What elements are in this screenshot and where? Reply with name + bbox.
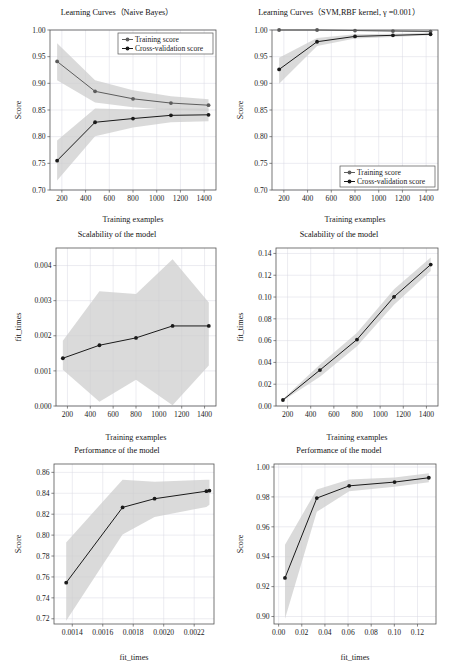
y-tick-label: 0.02 — [258, 380, 271, 389]
x-tick-label: 1400 — [419, 410, 434, 419]
x-tick-label: 600 — [107, 410, 119, 419]
y-tick-label: 0.90 — [254, 79, 267, 88]
y-tick-label: 0.78 — [36, 552, 49, 561]
y-tick-label: 0.04 — [258, 358, 271, 367]
data-point — [207, 103, 211, 107]
chart-panel-svm-learning-curve: Learning Curves（SVM,RBF kernel, γ =0.001… — [234, 8, 444, 226]
data-point — [207, 113, 211, 117]
y-tick-label: 0.001 — [34, 367, 51, 376]
data-point — [98, 343, 102, 347]
y-tick-label: 0.00 — [258, 402, 271, 411]
y-tick-label: 0.000 — [34, 402, 51, 411]
data-point — [121, 505, 125, 509]
x-tick-label: 1200 — [173, 194, 188, 203]
y-tick-label: 0.72 — [36, 614, 49, 623]
x-tick-label: 400 — [85, 410, 97, 419]
x-tick-label: 0.0022 — [184, 628, 205, 637]
legend-label-1: Cross-validation score — [357, 177, 426, 186]
x-tick-label: 1200 — [396, 410, 411, 419]
x-tick-label: 0.0014 — [62, 628, 83, 637]
data-point — [55, 159, 59, 163]
x-tick-label: 0.10 — [388, 628, 401, 637]
y-tick-label: 0.85 — [254, 106, 267, 115]
legend[interactable]: Training scoreCross-validation score — [118, 33, 213, 54]
data-point — [277, 68, 281, 72]
data-point — [429, 32, 433, 36]
x-axis-label: fit_times — [340, 653, 369, 662]
x-tick-label: 1400 — [197, 194, 212, 203]
x-tick-label: 1000 — [373, 410, 388, 419]
confidence-band — [66, 480, 209, 621]
x-tick-label: 1400 — [197, 410, 212, 419]
x-tick-label: 400 — [80, 194, 92, 203]
y-tick-label: 0.90 — [256, 612, 269, 621]
data-point — [429, 263, 433, 267]
data-point — [208, 489, 212, 493]
data-point — [61, 356, 65, 360]
y-axis-label: fit_times — [14, 312, 23, 341]
y-axis-label: Score — [236, 100, 245, 119]
data-point — [315, 40, 319, 44]
data-point — [391, 33, 395, 37]
legend-label-0: Training score — [357, 168, 401, 177]
x-tick-label: 200 — [62, 410, 74, 419]
chart-panel-svm-scalability: Scalability of the model2004006008001000… — [234, 230, 444, 444]
y-tick-label: 0.86 — [36, 468, 49, 477]
data-point — [131, 97, 135, 101]
data-point — [134, 336, 138, 340]
x-tick-label: 1200 — [395, 194, 410, 203]
x-tick-label: 200 — [282, 410, 294, 419]
plot-area-svm-scalability: 2004006008001000120014000.000.020.040.06… — [234, 230, 444, 444]
x-axis-label: Training examples — [103, 215, 164, 224]
y-axis-label: Score — [14, 534, 23, 553]
y-tick-label: 0.75 — [32, 159, 45, 168]
data-point — [93, 120, 97, 124]
data-point — [318, 368, 322, 372]
y-tick-label: 0.96 — [256, 523, 269, 532]
x-tick-label: 400 — [305, 410, 317, 419]
x-tick-label: 0.04 — [318, 628, 331, 637]
y-axis-label: fit_times — [236, 312, 245, 341]
y-tick-label: 0.08 — [258, 315, 271, 324]
data-point — [153, 497, 157, 501]
x-tick-label: 600 — [326, 194, 338, 203]
data-point — [169, 113, 173, 117]
learning-curves-figure: Learning Curves（Naive Bayes）200400600800… — [0, 0, 449, 667]
y-axis-label: Score — [236, 534, 245, 553]
y-tick-label: 0.12 — [258, 271, 271, 280]
data-point — [281, 398, 285, 402]
y-tick-label: 0.75 — [254, 159, 267, 168]
x-axis-label: Training examples — [106, 433, 167, 442]
y-tick-label: 0.06 — [258, 336, 271, 345]
data-point — [427, 476, 431, 480]
data-point — [392, 295, 396, 299]
plot-area-svm-learning-curve: 2004006008001000120014000.700.750.800.85… — [234, 8, 444, 226]
x-tick-label: 0.08 — [365, 628, 378, 637]
y-tick-label: 0.003 — [34, 296, 51, 305]
x-axis-label: Training examples — [327, 433, 388, 442]
y-tick-label: 0.70 — [32, 186, 45, 195]
y-tick-label: 0.76 — [36, 573, 49, 582]
data-point — [131, 117, 135, 121]
data-point — [283, 576, 287, 580]
data-point — [347, 484, 351, 488]
x-tick-label: 800 — [349, 194, 361, 203]
data-point — [64, 581, 68, 585]
data-point — [207, 324, 211, 328]
y-tick-label: 0.70 — [254, 186, 267, 195]
chart-panel-nb-learning-curve: Learning Curves（Naive Bayes）200400600800… — [12, 8, 222, 226]
y-tick-label: 0.74 — [36, 594, 49, 603]
y-tick-label: 0.90 — [32, 79, 45, 88]
x-tick-label: 200 — [56, 194, 68, 203]
x-tick-label: 0.02 — [295, 628, 308, 637]
y-tick-label: 1.00 — [32, 26, 45, 35]
legend-label-1: Cross-validation score — [135, 44, 204, 53]
plot-area-nb-scalability: 2004006008001000120014000.0000.0010.0020… — [12, 230, 222, 444]
x-tick-label: 0.12 — [411, 628, 424, 637]
x-tick-label: 600 — [104, 194, 116, 203]
data-point — [169, 101, 173, 105]
x-tick-label: 0.0016 — [92, 628, 113, 637]
y-tick-label: 0.98 — [256, 493, 269, 502]
y-tick-label: 0.94 — [256, 552, 269, 561]
legend[interactable]: Training scoreCross-validation score — [340, 166, 435, 187]
